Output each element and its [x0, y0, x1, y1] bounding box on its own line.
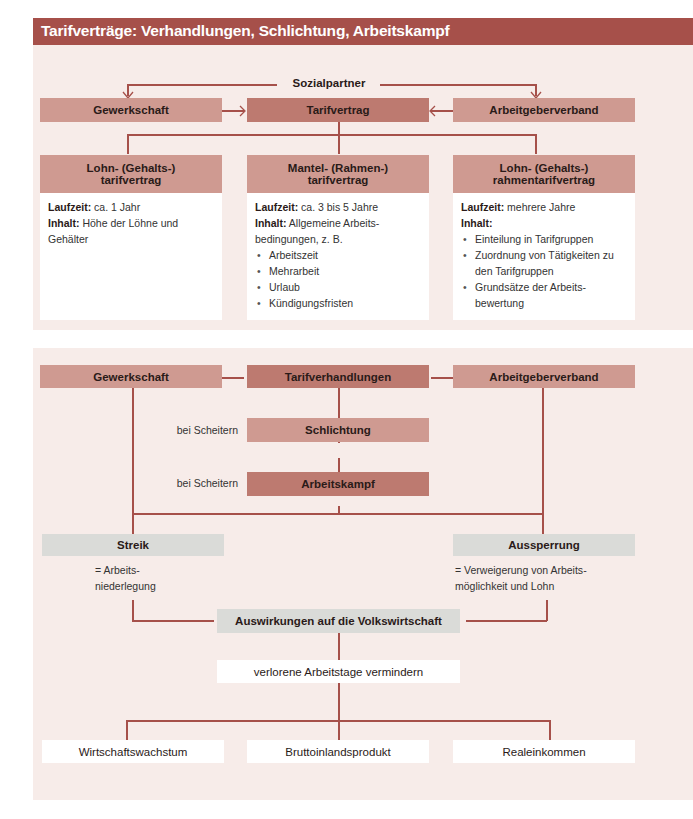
aussperrung-description: = Verweigerung von Arbeits­möglichkeit u… — [455, 562, 605, 594]
arbeitgeberverband-box: Arbeitgeberverband — [453, 98, 635, 122]
list-item: Urlaub — [269, 279, 421, 295]
connector-line — [132, 600, 134, 621]
contract-body-rahmentarif: Laufzeit: mehrere Jahre Inhalt: Einteilu… — [453, 193, 635, 320]
list-item: Zuordnung von Tätigkeiten zu den Tarifgr… — [475, 247, 627, 279]
contract-title-line2: tarifvertrag — [101, 174, 162, 186]
sozialpartner-label: Sozialpartner — [277, 77, 381, 89]
laufzeit-label: Laufzeit: — [48, 201, 91, 213]
bei-scheitern-label: bei Scheitern — [150, 477, 238, 489]
connector-line — [542, 388, 544, 543]
aussperrung-box: Aussperrung — [453, 534, 635, 556]
laufzeit-value: ca. 3 bis 5 Jahre — [298, 201, 378, 213]
tarifverhandlungen-box: Tarifverhandlungen — [247, 365, 429, 388]
arbeitgeberverband-box: Arbeitgeberverband — [453, 365, 635, 388]
connector-line — [338, 632, 340, 757]
list-item: Mehrarbeit — [269, 263, 421, 279]
bei-scheitern-label: bei Scheitern — [150, 424, 238, 436]
auswirkungen-box: Auswirkungen auf die Volkswirtschaft — [217, 609, 460, 633]
streik-box: Streik — [42, 534, 224, 556]
wirtschaftswachstum-box: Wirtschaftswachstum — [42, 740, 224, 763]
contract-body-lohntarif: Laufzeit: ca. 1 Jahr Inhalt: Höhe der Lö… — [40, 193, 222, 320]
list-item: Arbeitszeit — [269, 247, 421, 263]
connector-line — [549, 720, 551, 740]
list-item: Kündigungsfristen — [269, 295, 421, 311]
contract-title-line1: Mantel- (Rahmen-) — [288, 162, 388, 174]
connector-line — [126, 720, 550, 722]
connector-line — [132, 620, 214, 622]
content-list: Einteilung in Tarifgruppen Zuordnung von… — [461, 231, 627, 311]
contract-title-line1: Lohn- (Gehalts-) — [87, 162, 176, 174]
content-list: Arbeitszeit Mehrarbeit Urlaub Kündigungs… — [255, 247, 421, 311]
inhalt-label: Inhalt: — [48, 217, 80, 229]
bruttoinlandsprodukt-box: Bruttoinlandsprodukt — [247, 740, 429, 763]
connector-line — [132, 513, 543, 515]
contract-title-line1: Lohn- (Gehalts-) — [500, 162, 589, 174]
inhalt-label: Inhalt: — [255, 217, 287, 229]
gewerkschaft-box: Gewerkschaft — [40, 98, 222, 122]
contract-header-rahmentarif: Lohn- (Gehalts-) rahmentarifvertrag — [453, 155, 635, 193]
connector-line — [132, 388, 134, 543]
list-item: Grundsätze der Arbeits­bewertung — [475, 279, 627, 311]
connector-line — [222, 377, 244, 379]
laufzeit-value: mehrere Jahre — [504, 201, 575, 213]
list-item: Einteilung in Tarifgruppen — [475, 231, 627, 247]
arbeitskampf-box: Arbeitskampf — [247, 472, 429, 496]
gewerkschaft-box: Gewerkschaft — [40, 365, 222, 388]
contract-title-line2: rahmentarifvertrag — [493, 174, 595, 186]
connector-line — [431, 377, 453, 379]
realeinkommen-box: Realeinkommen — [453, 740, 635, 763]
laufzeit-label: Laufzeit: — [255, 201, 298, 213]
schlichtung-box: Schlichtung — [247, 418, 429, 442]
inhalt-label: Inhalt: — [461, 217, 493, 229]
verlorene-arbeitstage-box: verlorene Arbeitstage vermindern — [217, 660, 460, 683]
laufzeit-value: ca. 1 Jahr — [91, 201, 140, 213]
contract-header-lohntarif: Lohn- (Gehalts-) tarifvertrag — [40, 155, 222, 193]
laufzeit-label: Laufzeit: — [461, 201, 504, 213]
streik-description: = Arbeits­niederlegung — [95, 562, 175, 594]
connector-line — [126, 720, 128, 740]
connector-line — [546, 600, 548, 621]
contract-header-manteltarif: Mantel- (Rahmen-) tarifvertrag — [247, 155, 429, 193]
contract-title-line2: tarifvertrag — [308, 174, 369, 186]
contract-body-manteltarif: Laufzeit: ca. 3 bis 5 Jahre Inhalt: Allg… — [247, 193, 429, 320]
tarifvertrag-box: Tarifvertrag — [247, 98, 429, 122]
connector-line — [466, 620, 547, 622]
